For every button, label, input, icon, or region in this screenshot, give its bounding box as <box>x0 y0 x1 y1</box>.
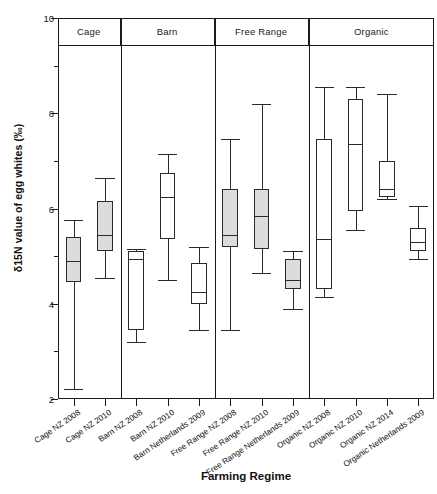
y-axis-tick-label: 2 <box>49 394 54 405</box>
whisker-cap-upper <box>315 87 334 88</box>
whisker-lower <box>105 251 106 277</box>
whisker-cap-upper <box>377 94 396 95</box>
median-line <box>66 261 82 262</box>
whisker-cap-lower <box>315 297 334 298</box>
median-line <box>316 239 332 240</box>
box-iqr <box>222 189 238 246</box>
box-iqr <box>316 139 332 289</box>
whisker-lower <box>356 211 357 230</box>
median-line <box>97 235 113 236</box>
whisker-upper <box>293 251 294 258</box>
whisker-cap-upper <box>221 139 240 140</box>
x-axis-tick <box>262 399 263 406</box>
box-iqr <box>348 99 364 211</box>
whisker-upper <box>356 87 357 99</box>
boxplot-organic-nz-2010 <box>340 18 371 399</box>
x-axis-tick <box>105 399 106 406</box>
whisker-upper <box>199 247 200 264</box>
boxplot-barn-nz-2008 <box>121 18 152 399</box>
whisker-upper <box>230 139 231 189</box>
whisker-cap-lower <box>409 259 428 260</box>
whisker-lower <box>230 247 231 330</box>
box-iqr <box>254 189 270 249</box>
x-axis-tick <box>74 399 75 406</box>
box-iqr <box>285 259 301 290</box>
whisker-cap-lower <box>95 278 114 279</box>
whisker-lower <box>136 330 137 342</box>
whisker-cap-lower <box>64 389 83 390</box>
x-axis-tick <box>136 399 137 406</box>
x-axis-tick <box>324 399 325 406</box>
whisker-cap-lower <box>252 273 271 274</box>
x-axis-label: Farming Regime <box>58 470 434 482</box>
box-iqr <box>128 251 144 330</box>
x-axis-tick <box>418 399 419 406</box>
whisker-cap-lower <box>127 342 146 343</box>
boxplot-barn-nz-2010 <box>152 18 183 399</box>
whisker-cap-upper <box>252 104 271 105</box>
box-iqr <box>66 237 82 282</box>
box-iqr <box>379 161 395 197</box>
whisker-cap-lower <box>283 309 302 310</box>
x-axis-tick <box>293 399 294 406</box>
boxplot-organic-nz-2008 <box>309 18 340 399</box>
y-axis-tick-label: 6 <box>49 203 54 214</box>
median-line <box>285 280 301 281</box>
median-line <box>348 144 364 145</box>
median-line <box>222 235 238 236</box>
boxplot-cage-nz-2010 <box>89 18 120 399</box>
boxplot-cage-nz-2008 <box>58 18 89 399</box>
box-iqr <box>191 263 207 303</box>
boxplot-figure: δ15N value of egg whites (‰) CageBarnFre… <box>0 0 437 494</box>
whisker-upper <box>262 104 263 190</box>
median-line <box>191 292 207 293</box>
boxplot-organic-netherlands-2009 <box>403 18 434 399</box>
whisker-cap-upper <box>158 154 177 155</box>
boxplot-organic-nz-2014 <box>371 18 402 399</box>
whisker-cap-upper <box>64 220 83 221</box>
boxplot-free-range-nz-2008 <box>215 18 246 399</box>
whisker-cap-upper <box>283 251 302 252</box>
x-axis-tick <box>356 399 357 406</box>
whisker-cap-upper <box>409 206 428 207</box>
x-axis-tick <box>387 399 388 406</box>
whisker-cap-lower <box>189 330 208 331</box>
whisker-cap-lower <box>158 280 177 281</box>
median-line <box>379 189 395 190</box>
whisker-upper <box>74 220 75 237</box>
whisker-lower <box>418 251 419 258</box>
median-line <box>254 216 270 217</box>
whisker-upper <box>324 87 325 139</box>
y-axis-label-container: δ15N value of egg whites (‰) <box>0 0 26 400</box>
y-axis-tick-label: 10 <box>43 13 54 24</box>
whisker-cap-upper <box>346 87 365 88</box>
whisker-cap-upper <box>95 178 114 179</box>
boxplot-free-range-netherlands-2009 <box>277 18 308 399</box>
box-iqr <box>160 173 176 240</box>
median-line <box>410 242 426 243</box>
median-line <box>160 197 176 198</box>
whisker-cap-upper <box>189 247 208 248</box>
whisker-cap-upper <box>127 249 146 250</box>
median-line <box>128 259 144 260</box>
whisker-upper <box>105 178 106 202</box>
box-iqr <box>410 228 426 252</box>
whisker-cap-lower <box>221 330 240 331</box>
whisker-lower <box>262 249 263 273</box>
whisker-lower <box>168 239 169 279</box>
x-axis-tick <box>199 399 200 406</box>
whisker-upper <box>168 154 169 173</box>
boxplot-free-range-nz-2010 <box>246 18 277 399</box>
whisker-upper <box>418 206 419 227</box>
x-axis-tick <box>230 399 231 406</box>
whisker-lower <box>74 282 75 388</box>
whisker-lower <box>324 289 325 296</box>
whisker-lower <box>199 304 200 330</box>
y-axis-tick-label: 8 <box>49 108 54 119</box>
y-axis-label: δ15N value of egg whites (‰) <box>12 73 24 323</box>
box-iqr <box>97 201 113 251</box>
whisker-upper <box>387 94 388 161</box>
boxplot-barn-netherlands-2009 <box>183 18 214 399</box>
whisker-lower <box>293 289 294 308</box>
whisker-cap-lower <box>377 199 396 200</box>
